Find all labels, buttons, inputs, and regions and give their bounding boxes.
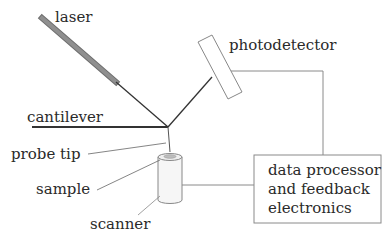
cantilever-label: cantilever [27, 108, 104, 126]
sample-leader [97, 160, 160, 190]
scanner-leader [138, 196, 160, 215]
afm-diagram: laser photodetector cantilever probe tip… [0, 0, 391, 240]
probe-tip [168, 127, 170, 152]
probe-tip-leader [88, 143, 166, 154]
processor-label-line2: and feedback [268, 180, 371, 198]
photodetector-label: photodetector [229, 36, 337, 54]
sample-label: sample [36, 180, 90, 198]
sample [164, 155, 176, 159]
reflected-beam [168, 77, 212, 127]
scanner [158, 154, 182, 204]
incident-beam [116, 82, 168, 127]
probe-tip-label: probe tip [11, 145, 80, 163]
laser [42, 18, 116, 82]
scanner-label: scanner [90, 215, 151, 233]
processor-label-line1: data processor [268, 161, 382, 179]
processor-label-line3: electronics [268, 199, 352, 217]
laser-label: laser [55, 8, 93, 26]
photodetector-wire [231, 71, 323, 155]
